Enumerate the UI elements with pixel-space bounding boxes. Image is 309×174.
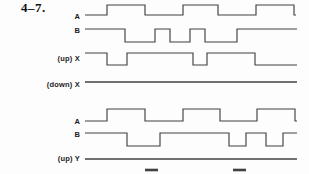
signal-label-a-bottom: A <box>74 117 80 126</box>
waveform-a-bottom <box>85 109 297 121</box>
signal-label-b-bottom: B <box>74 130 80 139</box>
waveform-canvas: AB(up) X(down) XAB(up) Y <box>0 0 309 174</box>
signal-label-up-x: (up) X <box>58 54 80 63</box>
signal-label-a-top: A <box>74 12 80 21</box>
signal-label-up-y: (up) Y <box>58 154 80 163</box>
signal-label-down-x: (down) X <box>47 80 80 89</box>
timing-diagram-figure: 4–7. AB(up) X(down) XAB(up) Y <box>0 0 309 174</box>
signal-label-b-top: B <box>74 26 80 35</box>
waveform-a-top <box>85 5 296 15</box>
waveform-b-top <box>85 29 297 42</box>
waveform-up-x <box>85 53 297 65</box>
waveform-b-bottom <box>85 133 297 146</box>
